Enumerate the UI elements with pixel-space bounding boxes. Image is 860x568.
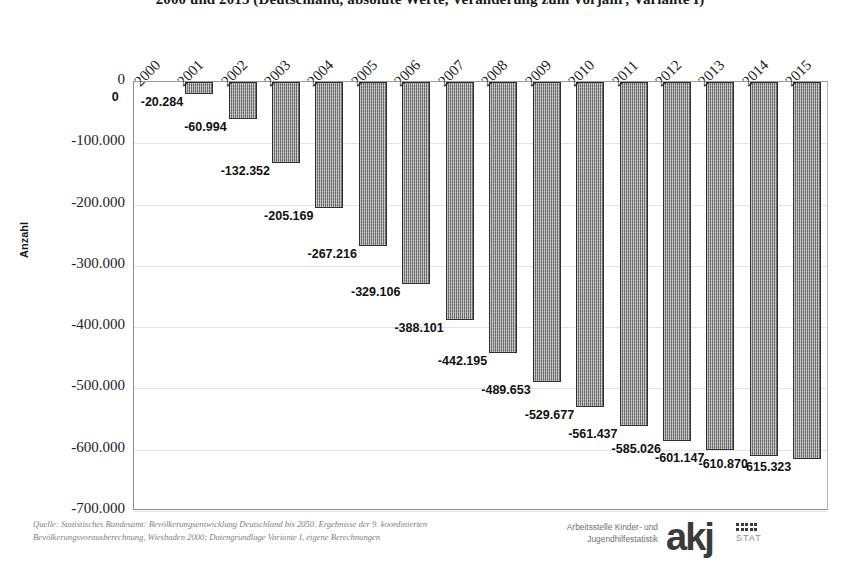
value-label-2006: -329.106 bbox=[338, 285, 400, 299]
gridline-7 bbox=[134, 511, 827, 512]
value-label-2008: -442.195 bbox=[425, 354, 487, 368]
value-label-2010: -529.677 bbox=[512, 408, 574, 422]
y-tick-0: 0 bbox=[29, 71, 125, 88]
bar-2004[interactable] bbox=[315, 82, 343, 208]
bar-2009[interactable] bbox=[533, 82, 561, 382]
bar-2003[interactable] bbox=[272, 82, 300, 163]
y-tick-3: -300.000 bbox=[29, 255, 125, 272]
source-line-2: Bevölkerungsvorausberechnung, Wiesbaden … bbox=[33, 531, 503, 544]
bar-2011[interactable] bbox=[620, 82, 648, 426]
value-label-2011: -561.437 bbox=[556, 427, 618, 441]
value-label-2004: -205.169 bbox=[251, 209, 313, 223]
bar-2008[interactable] bbox=[489, 82, 517, 353]
chart-figure: 2000 und 2015 (Deutschland, absolute Wer… bbox=[0, 0, 860, 568]
logo-stat-text: STAT bbox=[736, 533, 762, 543]
logo-dots-row-2 bbox=[736, 528, 757, 531]
logo-line-1: Arbeitsstelle Kinder- und bbox=[540, 522, 658, 534]
plot-area bbox=[133, 81, 828, 510]
bar-2007[interactable] bbox=[446, 82, 474, 320]
logo-wordmark: akj bbox=[666, 517, 713, 557]
logo-line-2: Jugendhilfestatistik bbox=[540, 534, 658, 546]
y-tick-2: -200.000 bbox=[29, 194, 125, 211]
y-tick-6: -600.000 bbox=[29, 439, 125, 456]
value-label-2015: -615.323 bbox=[729, 460, 791, 474]
y-axis-title: Anzahl bbox=[18, 222, 30, 258]
y-tick-1: -100.000 bbox=[29, 132, 125, 149]
value-label-2003: -132.352 bbox=[208, 164, 270, 178]
y-tick-5: -500.000 bbox=[29, 377, 125, 394]
source-line-1: Quelle: Statistisches Bundesamt: Bevölke… bbox=[33, 518, 503, 531]
source-note: Quelle: Statistisches Bundesamt: Bevölke… bbox=[33, 518, 503, 543]
bar-2002[interactable] bbox=[229, 82, 257, 119]
value-label-2002: -60.994 bbox=[165, 120, 227, 134]
value-label-2007: -388.101 bbox=[382, 321, 444, 335]
logo-org-name: Arbeitsstelle Kinder- und Jugendhilfesta… bbox=[540, 522, 658, 545]
akj-logo: Arbeitsstelle Kinder- und Jugendhilfesta… bbox=[540, 519, 840, 565]
chart-title: 2000 und 2015 (Deutschland, absolute Wer… bbox=[0, 0, 860, 8]
y-tick-4: -400.000 bbox=[29, 316, 125, 333]
value-label-2000: 0 bbox=[103, 90, 119, 104]
value-label-2005: -267.216 bbox=[295, 247, 357, 261]
bar-2012[interactable] bbox=[663, 82, 691, 441]
bar-2013[interactable] bbox=[706, 82, 734, 450]
bar-2010[interactable] bbox=[576, 82, 604, 407]
y-tick-7: -700.000 bbox=[29, 500, 125, 517]
logo-dots-row-1 bbox=[736, 523, 757, 526]
bar-2014[interactable] bbox=[750, 82, 778, 456]
bar-2006[interactable] bbox=[402, 82, 430, 284]
bar-2005[interactable] bbox=[359, 82, 387, 246]
value-label-2009: -489.653 bbox=[469, 383, 531, 397]
bar-2015[interactable] bbox=[793, 82, 821, 459]
value-label-2001: -20.284 bbox=[121, 95, 183, 109]
